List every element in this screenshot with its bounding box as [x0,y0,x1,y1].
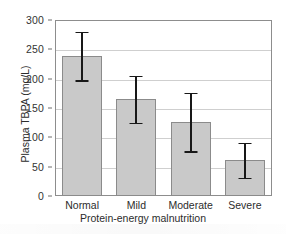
y-tick-mark [48,166,52,167]
x-tick-label-normal: Normal [65,199,99,211]
error-cap-upper-normal [76,32,89,34]
y-tick-label: 300 [26,14,44,26]
x-tick-label-moderate: Moderate [168,199,212,211]
x-tick-label-mild: Mild [127,199,146,211]
x-tick-label-severe: Severe [228,199,261,211]
gridline [56,50,271,51]
y-tick-mark [48,78,52,79]
y-tick-label: 50 [32,161,44,173]
error-bar-normal [81,32,83,81]
error-cap-lower-mild [130,123,143,125]
x-axis-title: Protein-energy malnutrition [0,212,286,224]
scan-artifact [0,224,286,234]
error-cap-upper-mild [130,76,143,78]
error-bar-moderate [190,93,192,152]
y-tick-label: 0 [38,190,44,202]
y-tick-mark [48,49,52,50]
y-tick-mark [48,137,52,138]
y-tick-mark [48,108,52,109]
y-tick-mark [48,196,52,197]
error-cap-lower-severe [238,178,251,180]
error-cap-upper-moderate [184,93,197,95]
error-cap-lower-moderate [184,151,197,153]
error-cap-lower-normal [76,80,89,82]
y-axis-title: Plasma TBPA (mg/L) [19,34,31,194]
y-tick-mark [48,20,52,21]
error-bar-mild [135,76,137,123]
bar-chart-figure: 050100150200250300 Plasma TBPA (mg/L) No… [0,0,286,234]
error-cap-upper-severe [238,143,251,145]
error-bar-severe [244,143,246,178]
